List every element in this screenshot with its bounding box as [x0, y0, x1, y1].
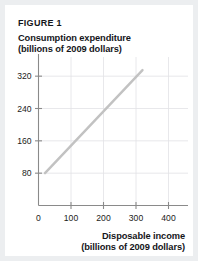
x-axis-tick-labels: 0100200300400	[36, 213, 176, 223]
svg-text:300: 300	[129, 213, 144, 223]
svg-text:80: 80	[22, 168, 32, 178]
chart-plot: 80160240320 0100200300400	[5, 5, 193, 256]
y-axis-tick-labels: 80160240320	[17, 71, 32, 178]
data-series-lines	[45, 70, 143, 173]
svg-text:400: 400	[161, 213, 176, 223]
svg-text:100: 100	[64, 213, 79, 223]
svg-text:0: 0	[36, 213, 41, 223]
svg-text:200: 200	[96, 213, 111, 223]
svg-text:320: 320	[17, 71, 32, 81]
figure-panel: FIGURE 1 Consumption expenditure (billio…	[5, 5, 193, 256]
horizontal-gridlines	[39, 76, 189, 173]
x-axis-title-line1: Disposable income	[102, 231, 185, 241]
svg-text:160: 160	[17, 136, 32, 146]
chart-axes	[39, 54, 189, 206]
svg-text:240: 240	[17, 104, 32, 114]
x-axis-title-line2: (billions of 2009 dollars)	[81, 242, 185, 252]
